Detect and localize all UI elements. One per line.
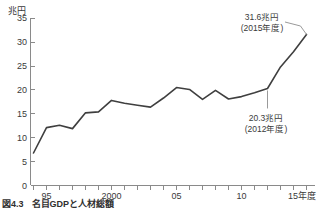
- x-tick-label-2010: 10: [236, 191, 246, 201]
- x-tick-label-2015: 15年度: [288, 190, 316, 201]
- y-tick-label-25: 25: [17, 61, 27, 71]
- y-axis-tick-labels: 0 5 10 15 20 25 30 35: [17, 13, 27, 190]
- annotation-2012-value: 20.3兆円: [249, 113, 284, 123]
- annotation-2015: 31.6兆円 (2015年度): [241, 12, 284, 33]
- y-tick-label-0: 0: [22, 181, 27, 191]
- figure-caption-text: 名目GDPと人材総額: [32, 199, 115, 208]
- y-tick-label-10: 10: [17, 133, 27, 143]
- figure-caption-number: 図4.3: [2, 199, 24, 208]
- y-tick-label-30: 30: [17, 37, 27, 47]
- annotation-2015-value: 31.6兆円: [245, 12, 280, 22]
- annotation-2012-year: (2012年度): [245, 124, 288, 134]
- x-tick-label-2005: 05: [171, 191, 181, 201]
- y-axis-ticks: [31, 18, 35, 185]
- figure-caption: 図4.3名目GDPと人材総額: [2, 197, 114, 208]
- annotation-leader-2015: [285, 22, 307, 34]
- y-tick-label-35: 35: [17, 13, 27, 23]
- annotation-2012: 20.3兆円 (2012年度): [245, 113, 288, 134]
- x-axis-ticks: [34, 186, 307, 190]
- figure-container: 兆円 0 5 10 15 20 25 30 35: [0, 0, 328, 208]
- y-tick-label-5: 5: [22, 157, 27, 167]
- annotation-2015-year: (2015年度): [241, 23, 284, 33]
- y-tick-label-20: 20: [17, 85, 27, 95]
- y-tick-label-15: 15: [17, 109, 27, 119]
- data-series-line: [34, 34, 307, 153]
- line-chart: 兆円 0 5 10 15 20 25 30 35: [0, 0, 328, 208]
